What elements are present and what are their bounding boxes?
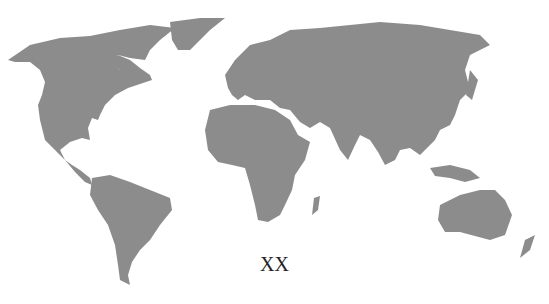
north-america [8, 18, 225, 185]
map-label: XX [0, 253, 549, 276]
